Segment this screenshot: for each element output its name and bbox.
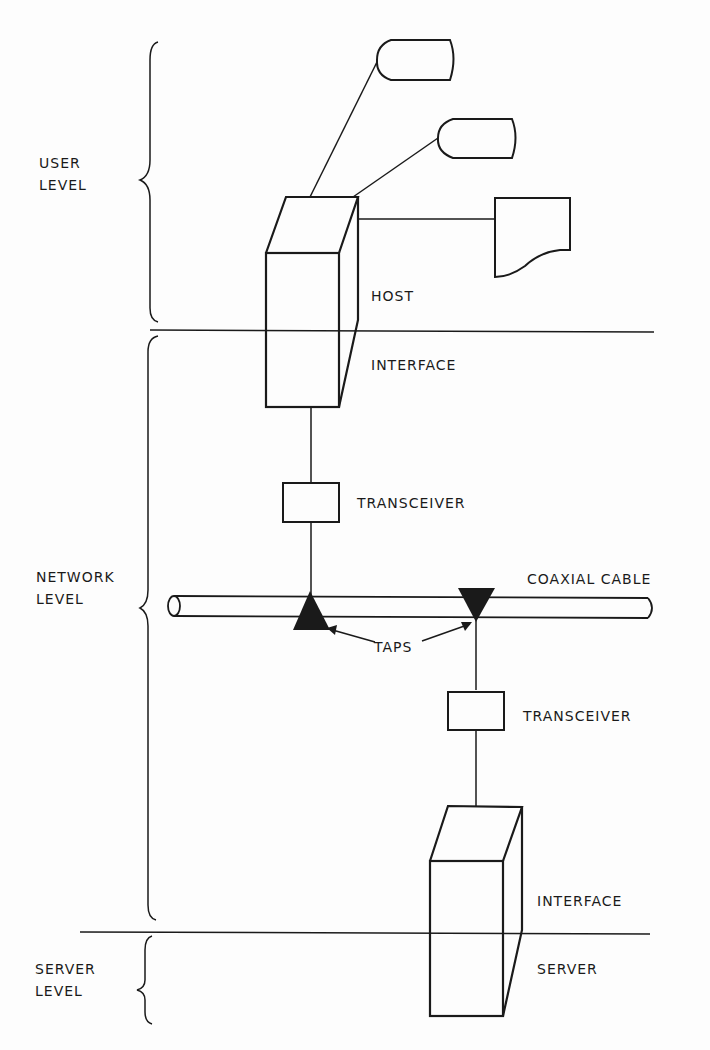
transceiver-bottom-icon xyxy=(448,692,504,730)
terminal-icon xyxy=(377,40,516,158)
server-level-label: SERVER LEVEL xyxy=(35,958,96,1002)
network-level-label: NETWORK LEVEL xyxy=(36,566,115,610)
server-level-brace xyxy=(137,936,152,1024)
printer-icon xyxy=(495,198,570,277)
taps-label: TAPS xyxy=(374,636,412,658)
coaxial-cable-icon xyxy=(168,596,652,618)
coaxial-cable-label: COAXIAL CABLE xyxy=(527,568,651,590)
network-diagram: USER LEVEL NETWORK LEVEL SERVER LEVEL HO… xyxy=(0,0,710,1050)
server-label: SERVER xyxy=(537,958,598,980)
user-level-label: USER LEVEL xyxy=(39,152,87,196)
transceiver-bottom-label: TRANSCEIVER xyxy=(523,705,632,727)
server-computer-icon xyxy=(430,806,522,1016)
network-server-separator xyxy=(80,932,650,934)
user-level-brace xyxy=(140,42,158,322)
transceiver-top-label: TRANSCEIVER xyxy=(357,492,466,514)
host-interface-label: INTERFACE xyxy=(371,354,456,376)
network-level-brace xyxy=(140,336,158,920)
server-interface-label: INTERFACE xyxy=(537,890,622,912)
user-network-separator xyxy=(150,330,654,332)
transceiver-top-icon xyxy=(283,483,339,522)
host-label: HOST xyxy=(371,285,414,307)
host-computer-icon xyxy=(266,197,358,407)
